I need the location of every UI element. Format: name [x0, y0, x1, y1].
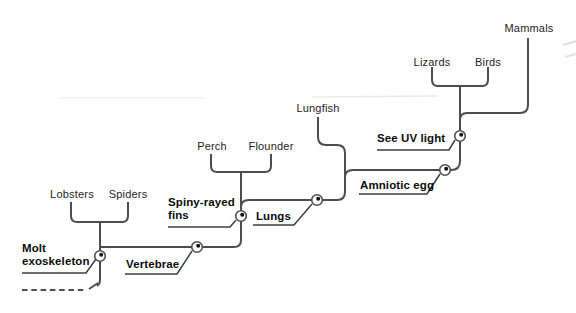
cladogram-figure: Lobsters Spiders Perch Flounder Lungfish…: [0, 0, 576, 313]
trait-label-spiny-rayed-fins: Spiny-rayed fins: [168, 196, 248, 222]
node-molt-exoskeleton: [95, 251, 106, 262]
branch-mammals: [460, 38, 528, 120]
taxon-label-birds: Birds: [475, 56, 501, 68]
taxon-label-spiders: Spiders: [109, 188, 148, 200]
node-vertebrae: [192, 242, 203, 253]
trait-label-amniotic-egg: Amniotic egg: [360, 179, 434, 192]
trait-label-molt-exoskeleton: Molt exoskeleton: [22, 242, 96, 268]
tree-branches: [71, 38, 528, 286]
branch-lobsters-spiders-bracket: [71, 202, 128, 222]
taxon-label-mammals: Mammals: [504, 22, 553, 34]
taxon-label-lobsters: Lobsters: [50, 188, 94, 200]
branch-lungs-backbone-and-lungfish: [241, 117, 345, 207]
branch-perch-flounder-bracket: [211, 154, 271, 172]
trait-label-see-uv-light: See UV light: [377, 132, 445, 145]
branch-lizards-birds-bracket: [432, 67, 488, 86]
taxon-label-perch: Perch: [197, 140, 227, 152]
node-lungs: [312, 195, 323, 206]
taxon-label-flounder: Flounder: [248, 140, 293, 152]
node-amniotic-egg: [440, 165, 451, 176]
node-see-uv-light: [455, 131, 466, 142]
trait-label-vertebrae: Vertebrae: [126, 258, 179, 271]
root-dashed-line: [22, 283, 98, 290]
trait-label-lungs: Lungs: [256, 210, 291, 223]
scan-artifacts: [60, 41, 576, 98]
taxon-label-lungfish: Lungfish: [296, 102, 339, 114]
taxon-label-lizards: Lizards: [414, 56, 451, 68]
